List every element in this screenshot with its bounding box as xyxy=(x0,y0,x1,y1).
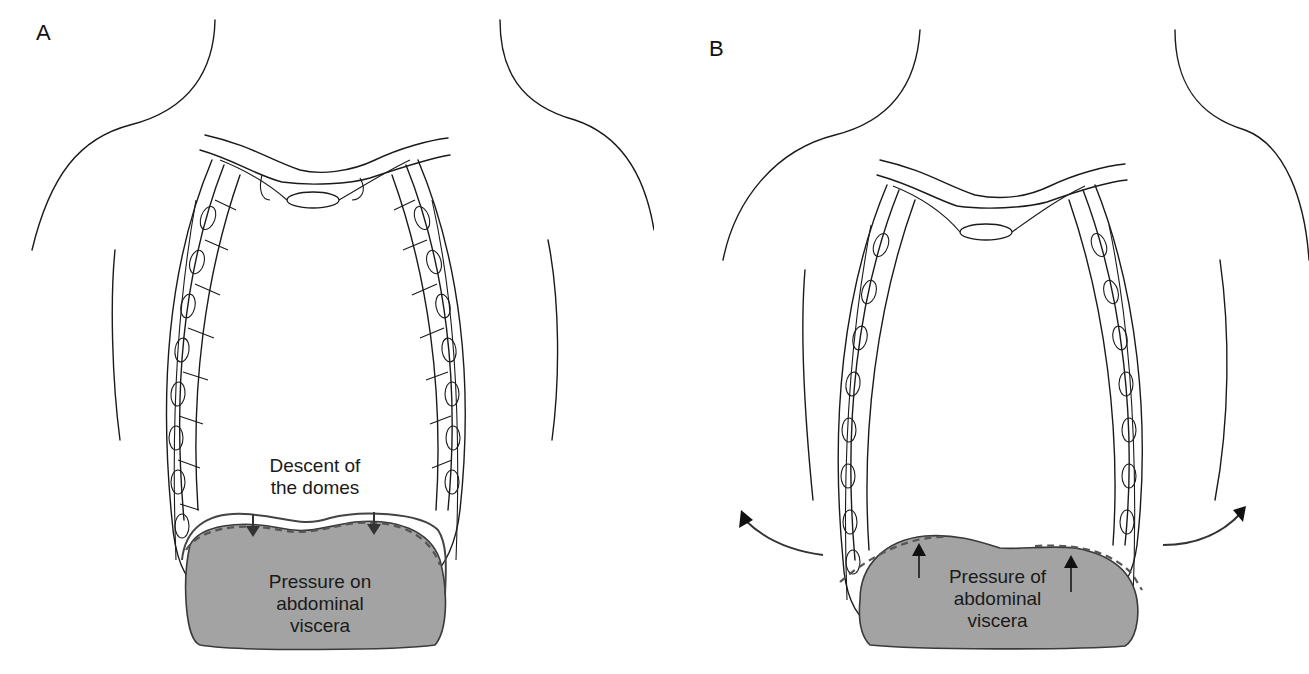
panel-b: B xyxy=(655,0,1309,674)
right-costal-segments-a xyxy=(394,200,460,494)
left-costal-segments-a xyxy=(169,200,236,538)
descent-of-domes-label: Descent of the domes xyxy=(250,455,380,499)
viscera-label-b: Pressure of abdominal viscera xyxy=(925,566,1070,632)
viscera-label-a: Pressure on abdominal viscera xyxy=(245,571,395,637)
panel-a: A xyxy=(0,0,654,674)
